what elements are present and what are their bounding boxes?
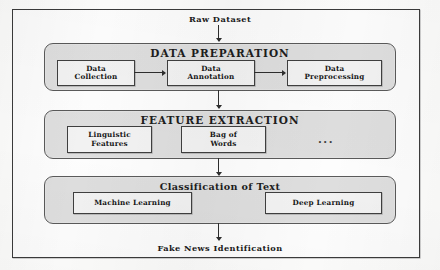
input-label: Raw Dataset [140,14,300,24]
arrow-collection-to-annotation [134,72,165,73]
box-data-preprocessing[interactable]: Data Preprocessing [287,60,382,86]
box-label: Bag of Words [210,131,237,148]
box-data-collection[interactable]: Data Collection [57,60,135,86]
flowchart-figure: Raw Dataset DATA PREPARATION Data Collec… [0,0,440,270]
arrow-feature-extraction-to-classification [218,158,219,175]
box-label: Machine Learning [94,199,171,207]
stage-title-feature-extraction: FEATURE EXTRACTION [45,114,395,126]
box-bag-of-words[interactable]: Bag of Words [181,126,266,153]
box-label: Deep Learning [293,199,355,207]
box-machine-learning[interactable]: Machine Learning [73,192,192,214]
stage-title-data-preparation: DATA PREPARATION [45,47,395,59]
box-label: Data Preprocessing [305,65,365,82]
arrow-annotation-to-preprocessing [254,72,285,73]
box-linguistic-features[interactable]: Linguistic Features [67,126,152,153]
box-deep-learning[interactable]: Deep Learning [265,192,382,214]
more-features-ellipsis: ... [318,134,334,145]
arrow-input-to-preparation [218,25,219,41]
arrow-preparation-to-feature-extraction [218,90,219,108]
box-data-annotation[interactable]: Data Annotation [167,60,255,86]
stage-title-classification-of-text: Classification of Text [45,181,395,192]
box-label: Data Annotation [188,65,235,82]
box-label: Data Collection [75,65,118,82]
output-label: Fake News Identification [128,243,312,253]
arrow-classification-to-output [218,223,219,240]
box-label: Linguistic Features [88,131,130,148]
